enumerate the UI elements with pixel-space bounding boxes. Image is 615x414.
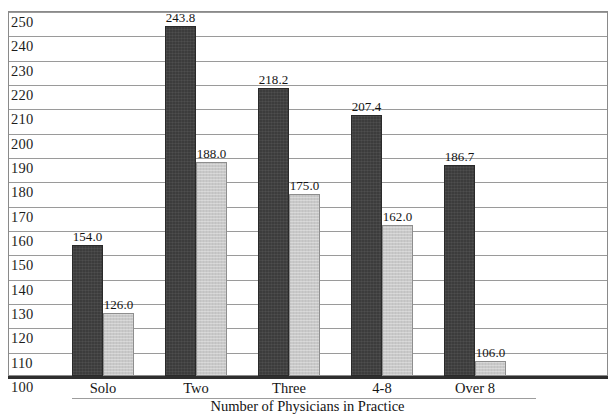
bar-value-label: 162.0 <box>376 210 419 223</box>
category-label: Solo <box>58 381 148 396</box>
bar-value-label: 154.0 <box>66 230 109 243</box>
x-axis-title: Number of Physicians in Practice <box>0 399 615 414</box>
bar-value-label: 126.0 <box>97 298 140 311</box>
category-label: Over 8 <box>430 381 520 396</box>
bar-value-label: 188.0 <box>190 147 233 160</box>
bar-value-label: 175.0 <box>283 179 326 192</box>
bar-value-label: 207.4 <box>345 100 388 113</box>
bar <box>444 165 475 376</box>
bar-value-label: 186.7 <box>438 150 481 163</box>
bar-value-label: 106.0 <box>469 346 512 359</box>
bar <box>289 194 320 377</box>
bar <box>351 115 382 376</box>
bar <box>475 361 506 376</box>
category-label: Three <box>244 381 334 396</box>
bars-layer <box>8 11 608 376</box>
x-axis-baseline <box>8 376 608 379</box>
bar <box>382 225 413 376</box>
category-label: Two <box>151 381 241 396</box>
category-label: 4-8 <box>337 381 427 396</box>
bar-value-label: 243.8 <box>159 11 202 24</box>
bar <box>103 313 134 376</box>
bar <box>196 162 227 376</box>
bar <box>258 88 289 376</box>
bar <box>165 26 196 376</box>
bar-value-label: 218.2 <box>252 73 295 86</box>
y-axis-tick-label: 100 <box>11 380 33 395</box>
